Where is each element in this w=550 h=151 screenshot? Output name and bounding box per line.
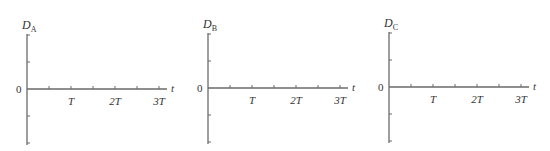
y-axis-label: DA	[21, 18, 37, 34]
panel-b: 0 t T 2T 3T DB	[197, 17, 356, 144]
y-axis-label-sub: B	[212, 24, 217, 33]
panel-a: 0 t T 2T 3T DA	[16, 18, 175, 145]
x-tick-label-3T: 3T	[333, 94, 347, 106]
origin-label: 0	[378, 81, 384, 93]
x-tick-label-2T: 2T	[290, 94, 303, 106]
y-axis-label-main: D	[21, 18, 31, 32]
y-axis-label-sub: C	[393, 23, 398, 32]
panel-c: 0 t T 2T 3T DC	[378, 16, 537, 143]
y-axis-label: DC	[383, 16, 398, 32]
x-tick-label-2T: 2T	[109, 95, 122, 107]
x-axis-label: t	[171, 82, 175, 94]
x-axis-label: t	[533, 80, 537, 92]
x-tick-label-T: T	[430, 93, 437, 105]
origin-label: 0	[16, 83, 22, 95]
y-axis-label: DB	[202, 17, 217, 33]
x-tick-label-3T: 3T	[514, 93, 528, 105]
y-axis-label-sub: A	[31, 25, 37, 34]
y-axis-label-main: D	[202, 17, 212, 31]
x-tick-label-T: T	[249, 94, 256, 106]
y-axis-label-main: D	[383, 16, 393, 30]
figure-canvas: 0 t T 2T 3T DA 0 t T 2T 3T DB	[0, 0, 550, 151]
x-axis-label: t	[352, 81, 356, 93]
x-tick-label-2T: 2T	[471, 93, 484, 105]
origin-label: 0	[197, 82, 203, 94]
x-tick-label-3T: 3T	[152, 95, 166, 107]
x-tick-label-T: T	[68, 95, 75, 107]
